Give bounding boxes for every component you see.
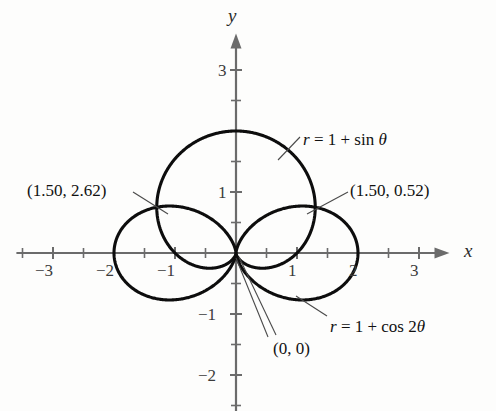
x-axis-arrowhead <box>435 248 450 259</box>
equation-label-cardioid: r = 1 + sin θ <box>303 131 387 148</box>
x-tick-label--2: −2 <box>96 262 114 279</box>
y-tick-label-3: 3 <box>218 62 227 79</box>
x-tick-label-1: 1 <box>288 262 297 279</box>
x-tick-label-2: 2 <box>349 262 358 279</box>
annotation-intersection-left: (1.50, 2.62) <box>27 182 106 199</box>
x-tick-label-3: 3 <box>410 262 419 279</box>
y-axis-arrowhead <box>231 33 242 48</box>
y-tick-label--1: −1 <box>198 306 216 323</box>
axes-group <box>16 33 449 411</box>
x-tick-label--3: −3 <box>35 262 53 279</box>
polar-plot-figure: −3−2−112331−1−2xyr = 1 + sin θr = 1 + co… <box>0 0 496 411</box>
annotation-origin-point: (0, 0) <box>273 340 310 357</box>
y-tick-label-1: 1 <box>218 184 227 201</box>
leader-origin-b <box>236 258 268 337</box>
y-tick-label--2: −2 <box>198 367 216 384</box>
equation-label-rose: r = 1 + cos 2θ <box>330 318 425 335</box>
y-axis-label: y <box>228 6 236 25</box>
x-axis-label: x <box>464 241 472 260</box>
annotation-intersection-right: (1.50, 0.52) <box>350 182 429 199</box>
plot-canvas <box>0 0 496 411</box>
x-tick-label--1: −1 <box>157 262 175 279</box>
leader-intersection-left <box>133 192 168 214</box>
